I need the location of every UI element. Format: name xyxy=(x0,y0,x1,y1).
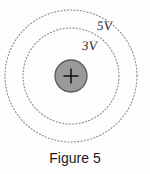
equipotential-label-5v: 3V xyxy=(81,38,99,54)
equipotential-label-3v: 5V xyxy=(96,18,114,34)
equipotential-diagram: 5V 3V xyxy=(0,0,150,150)
figure-caption: Figure 5 xyxy=(0,150,150,166)
figure-container: 5V 3V Figure 5 xyxy=(0,0,150,174)
